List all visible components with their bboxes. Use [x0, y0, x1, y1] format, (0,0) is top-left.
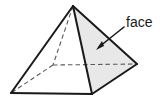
pyramid-diagram-svg: face — [0, 0, 163, 102]
edge-apex-to-base-left — [11, 6, 73, 93]
hidden-edge-apex-to-back — [53, 6, 73, 65]
hidden-edge-back-to-left — [11, 65, 53, 93]
face-label: face — [126, 14, 153, 30]
edge-base-left-to-base-front — [11, 93, 92, 94]
pyramid-face-figure: face — [0, 0, 163, 102]
